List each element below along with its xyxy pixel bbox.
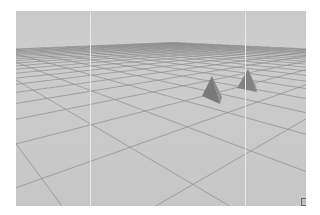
perspective-grid (16, 11, 306, 206)
guide-line (90, 11, 91, 206)
maximize-icon[interactable] (301, 198, 306, 206)
guide-line (245, 11, 246, 206)
viewport[interactable] (16, 11, 306, 206)
